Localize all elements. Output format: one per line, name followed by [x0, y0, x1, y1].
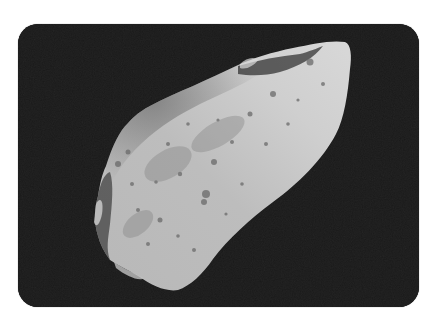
asteroid-image — [18, 24, 419, 307]
photo-frame: Cratered asteroid in space — [18, 24, 419, 307]
